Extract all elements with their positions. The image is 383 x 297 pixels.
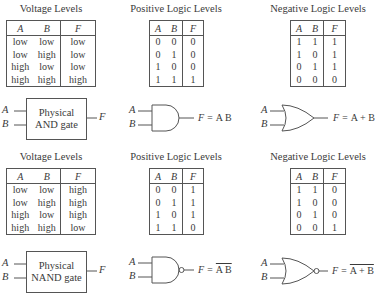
negative-logic-title: Negative Logic Levels (268, 3, 368, 14)
table-row: 100 (150, 61, 204, 74)
negative-logic-table-2: ABF 110 100 010 001 (290, 168, 346, 235)
table-row: 000 (291, 74, 346, 87)
table-row: 000 (150, 36, 204, 49)
voltage-levels-title: Voltage Levels (6, 3, 96, 14)
table-row: highhighhigh (7, 74, 96, 87)
table-row: 010 (291, 209, 346, 222)
or-equation: F = A + B (333, 112, 375, 123)
nor-input-a-label: A (261, 257, 267, 268)
table-row: 110 (150, 222, 204, 235)
input-a-label-2: A (2, 257, 8, 268)
table-row: 111 (150, 74, 204, 87)
table-row: 111 (291, 36, 346, 49)
input-b-label: B (2, 118, 8, 129)
or-input-b-label: B (261, 118, 267, 129)
table-row: lowlowhigh (7, 184, 96, 197)
input-b-label-2: B (2, 271, 8, 282)
table-row: 001 (291, 222, 346, 235)
voltage-levels-title-2: Voltage Levels (6, 151, 96, 162)
or-input-a-label: A (261, 104, 267, 115)
input-a-label: A (2, 104, 8, 115)
and-equation: F = A B (198, 112, 232, 123)
table-row: lowhighlow (7, 49, 96, 62)
nand-equation: F = A B (198, 264, 232, 275)
table-row: 100 (291, 197, 346, 210)
voltage-table-2: ABF lowlowhigh lowhighhigh highlowhigh h… (6, 168, 96, 235)
nor-input-b-label: B (261, 271, 267, 282)
positive-logic-title: Positive Logic Levels (126, 3, 226, 14)
table-row: 001 (150, 184, 204, 197)
and-gate-icon (152, 105, 179, 131)
nand-gate-icon (152, 257, 179, 283)
table-row: 101 (150, 209, 204, 222)
positive-logic-title-2: Positive Logic Levels (126, 151, 226, 162)
physical-nand-gate-box: PhysicalNAND gate (26, 251, 87, 293)
positive-logic-table-2: ABF 001 011 101 110 (149, 168, 204, 235)
negative-logic-table: ABF 111 101 011 000 (290, 20, 346, 87)
table-row: 110 (291, 184, 346, 197)
voltage-table: ABF lowlowlow lowhighlow highlowlow high… (6, 20, 96, 87)
table-row: highhighlow (7, 222, 96, 235)
physical-and-gate-box: PhysicalAND gate (26, 98, 87, 140)
nor-gate-icon (282, 258, 314, 284)
table-row: 010 (150, 49, 204, 62)
nor-equation: F = A + B (332, 265, 374, 276)
table-row: lowlowlow (7, 36, 96, 49)
and-input-a-label: A (129, 104, 135, 115)
nand-input-a-label: A (129, 256, 135, 267)
output-f-label-2: F (99, 264, 105, 275)
positive-logic-table: ABF 000 010 100 111 (149, 20, 204, 87)
table-row: highlowlow (7, 61, 96, 74)
table-row: 101 (291, 49, 346, 62)
negative-logic-title-2: Negative Logic Levels (268, 151, 368, 162)
table-row: 011 (291, 61, 346, 74)
or-gate-icon (282, 105, 314, 131)
and-input-b-label: B (129, 118, 135, 129)
table-row: 011 (150, 197, 204, 210)
output-f-label: F (99, 111, 105, 122)
nand-input-b-label: B (129, 270, 135, 281)
table-row: highlowhigh (7, 209, 96, 222)
table-row: lowhighhigh (7, 197, 96, 210)
